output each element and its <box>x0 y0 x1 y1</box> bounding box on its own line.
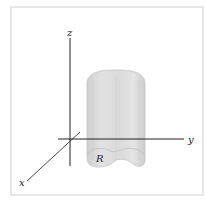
z-axis-label: z <box>66 27 73 38</box>
region-label: R <box>95 153 104 164</box>
x-axis-label: x <box>19 177 25 188</box>
y-axis-label: y <box>187 134 194 145</box>
diagram-canvas: z y x R <box>0 0 206 202</box>
